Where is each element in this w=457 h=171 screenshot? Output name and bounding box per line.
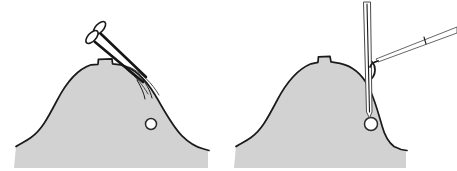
nodule-right xyxy=(365,118,378,131)
tissue-dome-left-fill xyxy=(14,59,208,168)
retractor-hook-shaft xyxy=(376,27,457,62)
nodule-left xyxy=(146,119,157,130)
panel-left xyxy=(14,19,209,168)
panel-right xyxy=(234,2,457,168)
illustration-canvas xyxy=(0,0,457,171)
tissue-dome-right-fill xyxy=(234,57,406,169)
surgical-illustration-figure xyxy=(0,0,457,171)
retractor-hook xyxy=(370,27,457,67)
